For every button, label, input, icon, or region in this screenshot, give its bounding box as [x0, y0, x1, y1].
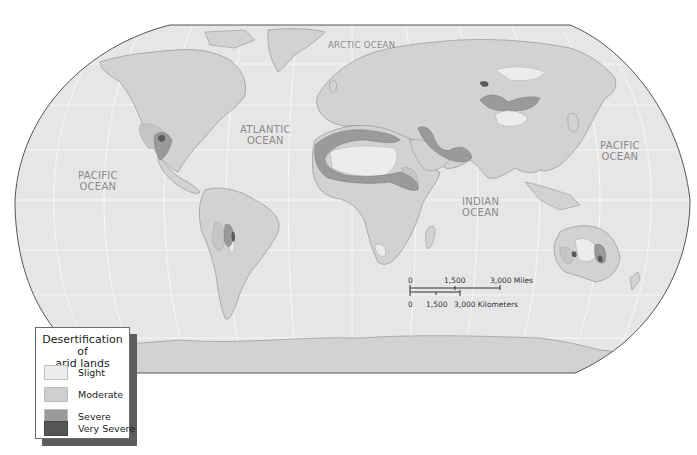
legend: Desertification of arid lands Slight Mod…: [35, 327, 130, 439]
scale-miles-0: 0: [408, 276, 413, 285]
scale-km-0: 0: [408, 300, 413, 309]
legend-item-slight: Slight: [44, 364, 105, 380]
legend-item-moderate: Moderate: [44, 386, 123, 402]
legend-label: Slight: [78, 367, 105, 378]
scale-km-1500: 1,500: [426, 300, 447, 309]
ocean-label-pacific-east: PACIFIC OCEAN: [600, 140, 640, 162]
ocean-label-arctic: ARCTIC OCEAN: [328, 40, 395, 51]
scale-bar: 0 1,500 3,000 Miles 0 1,500 3,000 Kilome…: [406, 272, 546, 312]
ocean-label-text: OCEAN: [600, 151, 640, 162]
scale-km-3000: 3,000 Kilometers: [454, 300, 518, 309]
ocean-label-atlantic: ATLANTIC OCEAN: [240, 124, 291, 146]
ocean-label-text: INDIAN: [462, 196, 499, 207]
legend-swatch-moderate: [44, 387, 68, 402]
ocean-label-text: PACIFIC: [600, 140, 640, 151]
ocean-label-indian: INDIAN OCEAN: [462, 196, 499, 218]
ocean-label-text: ATLANTIC: [240, 124, 291, 135]
scale-miles-3000: 3,000 Miles: [490, 276, 533, 285]
legend-title-line: Desertification of: [36, 334, 129, 358]
ocean-label-text: ARCTIC OCEAN: [328, 40, 395, 50]
ocean-label-text: OCEAN: [240, 135, 291, 146]
ocean-label-text: OCEAN: [462, 207, 499, 218]
ocean-label-text: PACIFIC: [78, 170, 118, 181]
legend-item-very-severe: Very Severe: [44, 420, 135, 436]
legend-swatch-slight: [44, 365, 68, 380]
ocean-label-pacific-west: PACIFIC OCEAN: [78, 170, 118, 192]
legend-label: Moderate: [78, 389, 123, 400]
ocean-label-text: OCEAN: [78, 181, 118, 192]
legend-swatch-very-severe: [44, 421, 68, 436]
scale-miles-1500: 1,500: [444, 276, 465, 285]
legend-label: Very Severe: [78, 423, 135, 434]
